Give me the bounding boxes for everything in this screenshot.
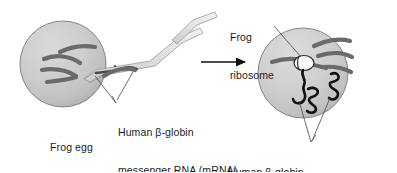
frog-ribosome [294,56,314,71]
label-ribosome-line2: ribosome [230,69,274,82]
label-mrna-line2: messenger RNA (mRNA) [118,164,237,173]
label-human-beta-globin-synthesis: Human β-globin synthesis [228,141,304,172]
label-mrna-line1: Human β-globin [118,126,237,139]
label-frog-egg: Frog egg [38,128,93,166]
injection-micropipette [84,12,217,83]
figure-container: Frog egg Human β-globin messenger RNA (m… [0,0,397,172]
label-synthesis-line1: Human β-globin [228,166,304,172]
label-frog-ribosome: Frog ribosome [230,6,274,106]
label-ribosome-line1: Frog [230,31,274,44]
label-frog-egg-text: Frog egg [50,141,93,153]
frog-egg-cell [20,21,106,107]
label-human-beta-globin-mrna: Human β-globin messenger RNA (mRNA) [118,101,237,172]
